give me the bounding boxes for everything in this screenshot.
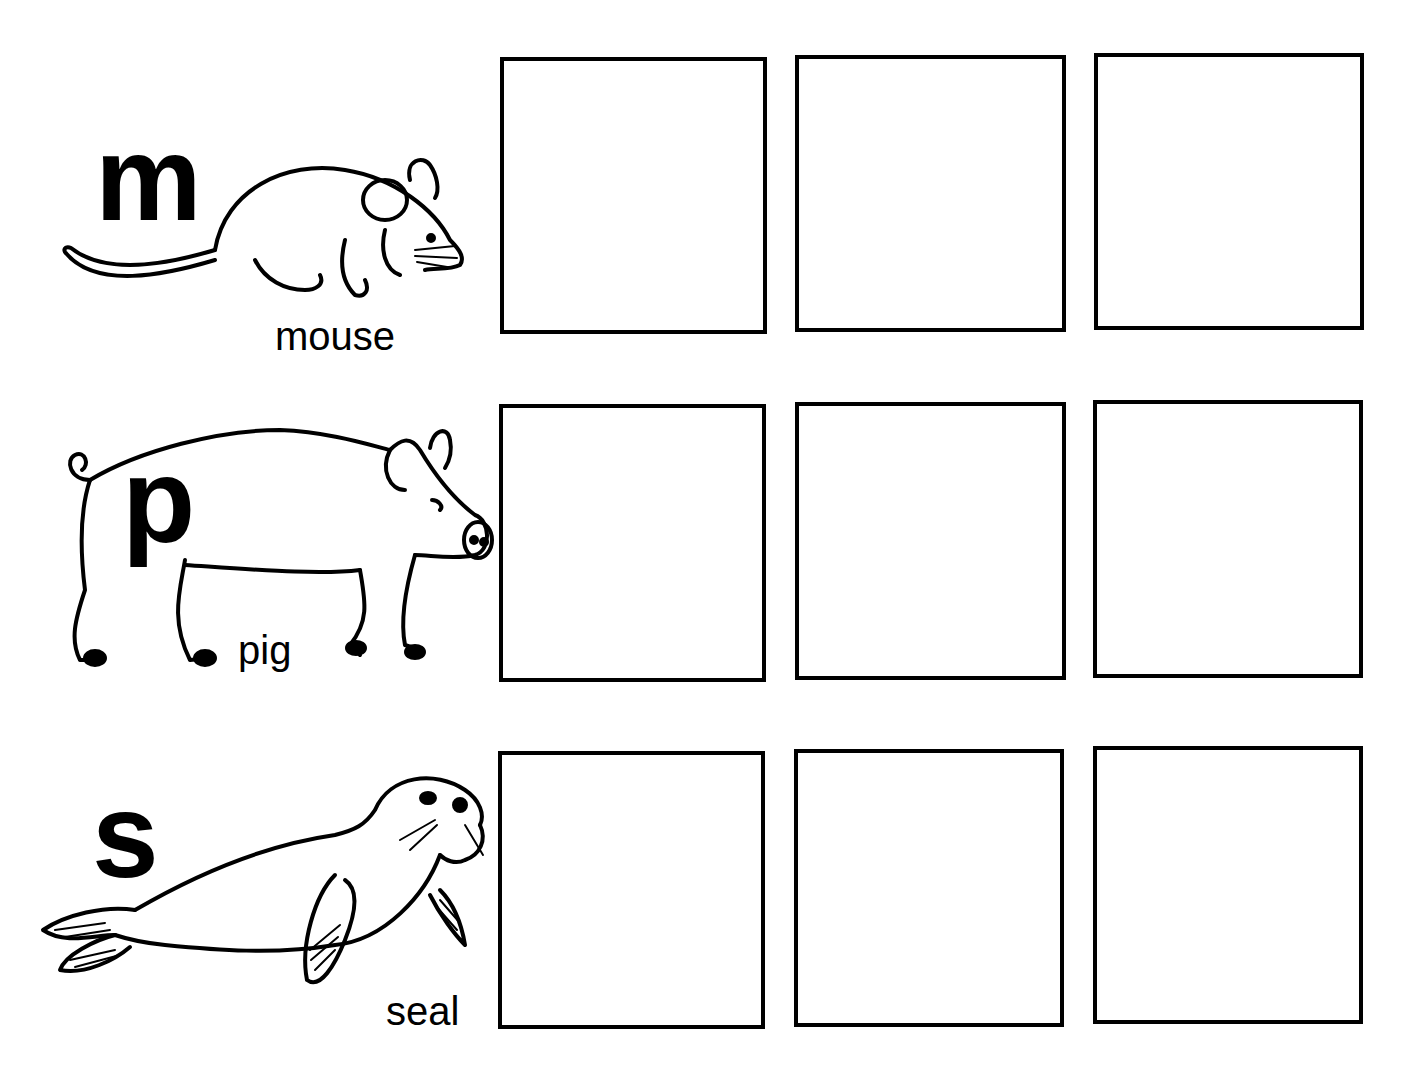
letter-box-2-2[interactable] <box>795 402 1066 680</box>
letter-box-3-3[interactable] <box>1093 746 1363 1024</box>
letter-box-3-1[interactable] <box>498 751 765 1029</box>
letter-s: s <box>92 775 159 895</box>
letter-box-3-2[interactable] <box>794 749 1064 1027</box>
letter-box-2-3[interactable] <box>1093 400 1363 678</box>
letter-p: p <box>122 440 195 560</box>
letter-box-1-3[interactable] <box>1094 53 1364 330</box>
letter-box-2-1[interactable] <box>499 404 766 682</box>
letter-box-1-1[interactable] <box>500 57 767 334</box>
animal-label-pig: pig <box>238 630 291 670</box>
animal-label-mouse: mouse <box>275 316 395 356</box>
animal-label-seal: seal <box>386 991 459 1031</box>
letter-box-1-2[interactable] <box>795 55 1066 332</box>
letter-m: m <box>95 118 202 238</box>
